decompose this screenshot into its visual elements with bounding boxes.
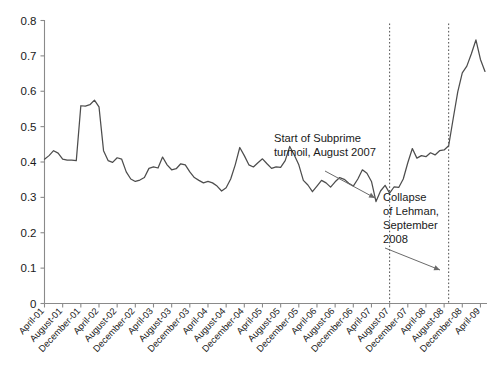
annotation-lehman-line-3: 2008	[383, 233, 408, 245]
annotation-subprime-line-0: Start of Subprime	[274, 132, 361, 144]
y-tick-label: 0.5	[21, 121, 37, 133]
y-tick-label: 0.3	[21, 191, 37, 203]
annotation-lehman-line-0: Collapse	[383, 191, 427, 203]
annotation-subprime-line-1: turmoil, August 2007	[274, 146, 376, 158]
y-axis: 00.10.20.30.40.50.60.70.8	[21, 15, 45, 310]
y-tick-label: 0.6	[21, 85, 37, 97]
line-chart: 00.10.20.30.40.50.60.70.8 April-01August…	[0, 0, 495, 369]
y-tick-label: 0	[30, 298, 36, 310]
annotation-lehman-line-2: September	[383, 219, 438, 231]
annotation-lehman-line-1: of Lehman,	[383, 205, 439, 217]
y-tick-label: 0.4	[21, 156, 38, 168]
data-series-line	[45, 40, 486, 202]
annotation-arrow-lehman	[385, 248, 440, 270]
y-tick-label: 0.2	[21, 227, 37, 239]
y-tick-label: 0.7	[21, 50, 37, 62]
y-tick-label: 0.1	[21, 262, 37, 274]
y-tick-label: 0.8	[21, 15, 37, 27]
chart-container: 00.10.20.30.40.50.60.70.8 April-01August…	[0, 0, 495, 369]
chart-annotations: Start of Subprimeturmoil, August 2007Col…	[274, 132, 440, 270]
x-axis: April-01August-01December-01April-02Augu…	[17, 304, 487, 355]
